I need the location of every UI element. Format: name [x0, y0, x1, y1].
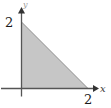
coordinate-plane-graphic: [0, 0, 111, 108]
x-axis-label: x: [100, 84, 106, 94]
y-axis-label: y: [23, 1, 28, 9]
figure-container: 2 2 x y: [0, 0, 111, 108]
y-axis-tick-label-2: 2: [5, 16, 13, 29]
x-axis-arrow-icon: [93, 85, 99, 92]
x-axis-tick-label-2: 2: [84, 93, 92, 106]
shaded-triangle-region: [22, 22, 89, 89]
